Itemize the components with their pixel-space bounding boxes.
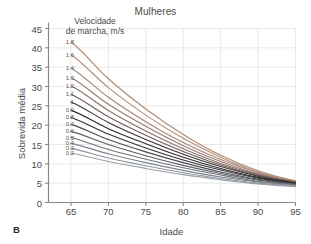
y-tick-label: 0 <box>22 197 42 208</box>
panel-label: B <box>13 224 20 235</box>
legend-title: Velocidade de marcha, m/s <box>52 16 138 36</box>
legend-value-label: 1.8 <box>52 39 74 45</box>
legend-value-label: 1.4 <box>52 65 74 71</box>
x-tick-label: 95 <box>284 206 308 217</box>
legend-title-line-1: Velocidade <box>52 16 138 26</box>
x-axis-title: Idade <box>48 226 295 237</box>
legend-value-label: 0.9 <box>52 107 74 113</box>
x-tick-label: 90 <box>246 206 270 217</box>
y-tick-label: 45 <box>22 23 42 34</box>
legend-value-label: 0.8 <box>52 114 74 120</box>
legend-value-label: 1 <box>52 99 74 105</box>
x-tick-label: 80 <box>171 206 195 217</box>
legend-value-label: 1.6 <box>52 52 74 58</box>
x-tick-label: 75 <box>134 206 158 217</box>
x-tick-label: 85 <box>209 206 233 217</box>
x-tick-label: 65 <box>59 206 83 217</box>
legend-title-line-2: de marcha, m/s <box>52 26 138 36</box>
y-axis-title: Sobrevida média <box>16 54 27 194</box>
x-tick-label: 70 <box>96 206 120 217</box>
legend-value-label: 0.6 <box>52 128 74 134</box>
legend-value-label: 1.2 <box>52 83 74 89</box>
figure-panel-b: Mulheres 051015202530354045 657075808590… <box>0 0 311 244</box>
legend-value-label: 1.1 <box>52 91 74 97</box>
legend-value-label: 0.7 <box>52 121 74 127</box>
y-tick-label: 40 <box>22 42 42 53</box>
legend-value-label: 1.3 <box>52 75 74 81</box>
legend-value-label: 0.2 <box>52 150 74 156</box>
